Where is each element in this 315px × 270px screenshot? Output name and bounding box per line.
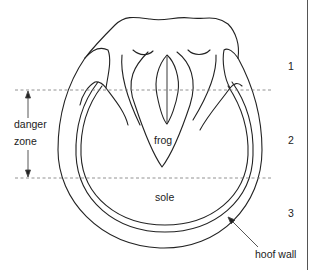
danger-arrow-down-head: [26, 170, 31, 177]
frog-label: frog: [154, 134, 172, 146]
hoof-wall-label: hoof wall: [255, 248, 296, 260]
danger-zone-label-line2: zone: [14, 135, 37, 147]
hoof-wall-pointer-shaft: [232, 221, 258, 247]
sole-label: sole: [155, 191, 174, 203]
zone-number-1: 1: [288, 60, 294, 72]
danger-zone-label-line1: danger: [14, 118, 47, 130]
white-line-inner: [81, 86, 248, 225]
hoof-diagram: danger zone frog sole hoof wall 1 2 3: [0, 0, 315, 270]
zone-number-2: 2: [288, 134, 294, 146]
right-border-line: [307, 0, 308, 270]
frog-outline: [131, 52, 193, 167]
danger-arrow-up-head: [26, 91, 31, 98]
white-line-outer: [76, 82, 253, 232]
heel-bulbs-outline: [85, 17, 239, 58]
zone-number-3: 3: [288, 207, 294, 219]
